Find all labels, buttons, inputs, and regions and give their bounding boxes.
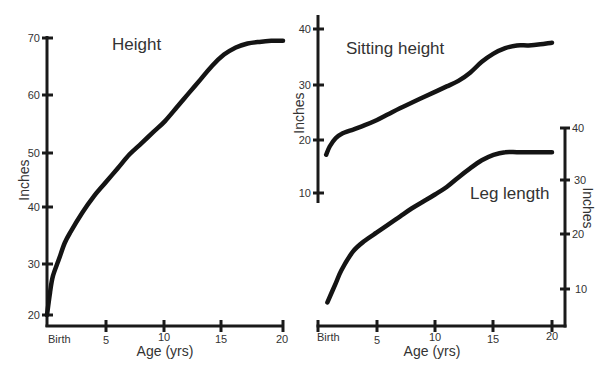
sitting-y-label-30: 30 bbox=[299, 79, 311, 91]
sitting-height-chart: 40 30 20 10 Inches Sitting height bbox=[291, 15, 552, 203]
height-x-label-20: 20 bbox=[276, 333, 288, 345]
height-chart: 70 60 50 40 30 20 Birth 5 10 15 20 Age (… bbox=[16, 32, 288, 359]
leg-y-label-40: 40 bbox=[572, 122, 584, 134]
leg-y-label-30: 30 bbox=[574, 174, 586, 186]
height-y-label-70: 70 bbox=[28, 32, 40, 44]
leg-x-label-5: 5 bbox=[374, 334, 380, 346]
height-x-axis-title: Age (yrs) bbox=[137, 343, 194, 359]
leg-x-label-20: 20 bbox=[546, 330, 558, 342]
height-y-label-40: 40 bbox=[28, 201, 40, 213]
leg-y-label-20: 20 bbox=[572, 228, 584, 240]
sitting-y-label-10: 10 bbox=[299, 187, 311, 199]
leg-length-curve bbox=[327, 152, 552, 302]
height-y-label-50: 50 bbox=[28, 147, 40, 159]
leg-length-chart: 40 30 20 10 Birth 5 10 15 20 Age (yrs) I… bbox=[317, 122, 597, 359]
leg-x-label-10: 10 bbox=[429, 331, 441, 343]
height-y-label-20: 20 bbox=[28, 309, 40, 321]
leg-chart-title: Leg length bbox=[470, 184, 549, 203]
sitting-y-axis-title: Inches bbox=[291, 92, 307, 133]
leg-x-label-15: 15 bbox=[487, 333, 499, 345]
leg-x-label-birth: Birth bbox=[317, 331, 340, 343]
sitting-chart-title: Sitting height bbox=[346, 39, 445, 58]
growth-charts: 70 60 50 40 30 20 Birth 5 10 15 20 Age (… bbox=[0, 0, 613, 380]
leg-y-label-10: 10 bbox=[575, 283, 587, 295]
height-y-label-30: 30 bbox=[28, 258, 40, 270]
height-x-label-15: 15 bbox=[215, 333, 227, 345]
leg-y-axis-title: Inches bbox=[580, 187, 596, 228]
height-y-axis-title: Inches bbox=[16, 159, 32, 200]
sitting-y-label-20: 20 bbox=[299, 134, 311, 146]
height-y-label-60: 60 bbox=[28, 89, 40, 101]
height-chart-title: Height bbox=[112, 35, 161, 54]
leg-x-axis-title: Age (yrs) bbox=[404, 343, 461, 359]
height-x-label-10: 10 bbox=[158, 331, 170, 343]
sitting-height-curve bbox=[326, 43, 552, 155]
sitting-y-label-40: 40 bbox=[299, 23, 311, 35]
height-curve bbox=[47, 41, 283, 315]
height-x-label-5: 5 bbox=[103, 334, 109, 346]
height-x-label-birth: Birth bbox=[48, 333, 71, 345]
